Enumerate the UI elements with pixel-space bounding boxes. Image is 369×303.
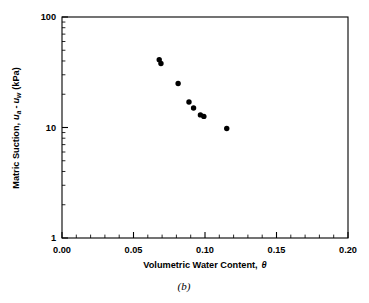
plot-border	[62, 17, 348, 238]
data-point-marker	[186, 99, 191, 104]
x-tick-label: 0.15	[268, 245, 286, 255]
data-point-marker	[201, 114, 206, 119]
figure-caption: (b)	[178, 280, 191, 293]
x-tick-label: 0.00	[53, 245, 71, 255]
y-axis-tick-labels: 110100	[41, 12, 56, 243]
x-tick-label: 0.10	[196, 245, 214, 255]
x-axis-tick-labels: 0.000.050.100.150.20	[53, 245, 357, 255]
y-axis-title-text: Matric Suction,ua-uw(kPa)	[11, 67, 22, 188]
y-tick-label: 100	[41, 12, 56, 22]
x-axis-ticks	[62, 232, 348, 238]
data-point-marker	[224, 126, 229, 131]
y-axis-title: Matric Suction,ua-uw(kPa)	[11, 67, 22, 188]
data-point-marker	[191, 105, 196, 110]
x-tick-label: 0.20	[339, 245, 357, 255]
data-point-marker	[175, 81, 180, 86]
x-axis-title: Volumetric Water Content,θ	[143, 260, 266, 270]
data-point-marker	[158, 61, 163, 66]
x-axis-title-text: Volumetric Water Content,θ	[143, 260, 266, 270]
y-tick-label: 1	[51, 233, 56, 243]
x-tick-label: 0.05	[125, 245, 143, 255]
chart-svg: 110100 0.000.050.100.150.20 Volumetric W…	[0, 0, 369, 303]
figure-container: 110100 0.000.050.100.150.20 Volumetric W…	[0, 0, 369, 303]
data-series-markers	[157, 57, 230, 131]
y-axis-ticks	[62, 17, 68, 238]
plot-frame	[62, 17, 348, 238]
y-tick-label: 10	[46, 123, 56, 133]
